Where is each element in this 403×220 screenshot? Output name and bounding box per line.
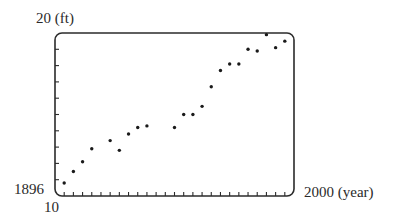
data-point xyxy=(145,124,148,127)
data-point xyxy=(90,147,93,150)
data-point xyxy=(210,85,213,88)
data-point xyxy=(228,62,231,65)
data-point xyxy=(62,181,65,184)
data-point xyxy=(81,160,84,163)
plot-frame xyxy=(55,33,294,196)
data-point xyxy=(127,132,130,135)
data-point xyxy=(200,105,203,108)
data-point xyxy=(219,69,222,72)
scatter-plot xyxy=(0,0,403,220)
data-point xyxy=(173,126,176,129)
data-point xyxy=(108,139,111,142)
data-points xyxy=(62,33,286,185)
data-point xyxy=(256,49,259,52)
data-point xyxy=(283,39,286,42)
data-point xyxy=(274,46,277,49)
data-point xyxy=(118,149,121,152)
data-point xyxy=(72,170,75,173)
data-point xyxy=(246,48,249,51)
data-point xyxy=(191,113,194,116)
data-point xyxy=(136,126,139,129)
data-point xyxy=(265,33,268,36)
data-point xyxy=(182,113,185,116)
data-point xyxy=(237,62,240,65)
